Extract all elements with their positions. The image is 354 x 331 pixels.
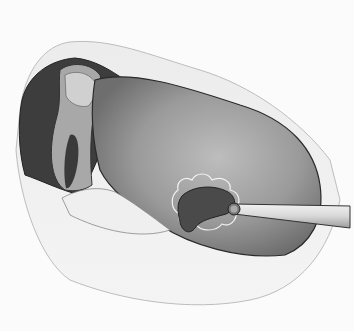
medical-illustration bbox=[0, 0, 354, 331]
probe-tip-texture bbox=[231, 206, 238, 213]
illustration-svg bbox=[0, 0, 354, 331]
